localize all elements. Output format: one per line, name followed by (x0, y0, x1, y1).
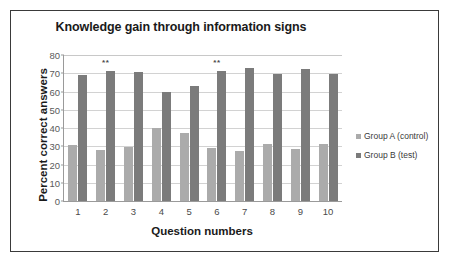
bar-group-q1 (64, 55, 92, 201)
legend-item-group-b[interactable]: Group B (test) (356, 150, 428, 160)
bar-group-a-q6 (207, 148, 216, 201)
bar-group-q10 (314, 55, 342, 201)
significance-marker-q6: ** (213, 59, 220, 67)
x-tick-label-6: 6 (214, 206, 219, 217)
bar-group-a-q10 (319, 144, 328, 201)
bar-group-b-q4 (162, 92, 171, 202)
y-tick-label-30: 30 (49, 141, 60, 152)
significance-marker-q2: ** (102, 59, 109, 67)
bar-group-q9 (286, 55, 314, 201)
x-tick-label-2: 2 (103, 206, 108, 217)
bar-group-b-q5 (190, 86, 199, 201)
legend-label: Group A (control) (364, 131, 428, 141)
legend-swatch-icon (356, 153, 361, 158)
bar-group-a-q7 (235, 151, 244, 201)
bar-group-a-q1 (68, 145, 77, 201)
bar-group-q6 (203, 55, 231, 201)
x-tick-label-1: 1 (75, 206, 80, 217)
legend-swatch-icon (356, 134, 361, 139)
y-tick-label-40: 40 (49, 123, 60, 134)
bar-group-b-q6 (217, 71, 226, 201)
bar-group-a-q4 (152, 128, 161, 201)
bar-group-b-q7 (245, 68, 254, 201)
x-tick-label-8: 8 (270, 206, 275, 217)
bar-group-a-q5 (180, 133, 189, 201)
bar-group-a-q3 (124, 147, 133, 201)
x-tick-label-5: 5 (186, 206, 191, 217)
bar-group-q7 (231, 55, 259, 201)
y-tick-label-80: 80 (49, 50, 60, 61)
chart-title: Knowledge gain through information signs (11, 20, 351, 34)
bar-group-q3 (120, 55, 148, 201)
legend-label: Group B (test) (364, 150, 417, 160)
chart-legend: Group A (control)Group B (test) (356, 131, 428, 169)
y-tick-label-60: 60 (49, 86, 60, 97)
bar-group-a-q9 (291, 149, 300, 201)
legend-item-group-a[interactable]: Group A (control) (356, 131, 428, 141)
bar-group-b-q10 (329, 74, 338, 201)
bar-group-q8 (259, 55, 287, 201)
y-tick-label-70: 70 (49, 68, 60, 79)
plot-area: 0102030405060708012345678910**** (63, 55, 342, 202)
bar-group-q2 (92, 55, 120, 201)
bar-group-b-q2 (106, 71, 115, 201)
y-tick-label-10: 10 (49, 177, 60, 188)
y-axis-title: Percent correct answers (37, 55, 49, 215)
bar-group-a-q8 (263, 144, 272, 201)
bar-group-q4 (147, 55, 175, 201)
bar-group-q5 (175, 55, 203, 201)
x-tick-label-7: 7 (242, 206, 247, 217)
bar-group-b-q9 (301, 69, 310, 201)
x-tick-label-10: 10 (323, 206, 334, 217)
x-axis-title: Question numbers (63, 225, 341, 237)
bar-group-b-q1 (78, 75, 87, 201)
y-tick-label-50: 50 (49, 104, 60, 115)
x-tick-label-4: 4 (159, 206, 164, 217)
x-tick-label-3: 3 (131, 206, 136, 217)
chart-frame: Knowledge gain through information signs… (10, 10, 439, 252)
bar-group-b-q3 (134, 72, 143, 201)
x-tick-label-9: 9 (298, 206, 303, 217)
bar-group-b-q8 (273, 74, 282, 201)
bar-group-a-q2 (96, 150, 105, 201)
y-tick-label-20: 20 (49, 159, 60, 170)
y-tick-label-0: 0 (55, 196, 60, 207)
